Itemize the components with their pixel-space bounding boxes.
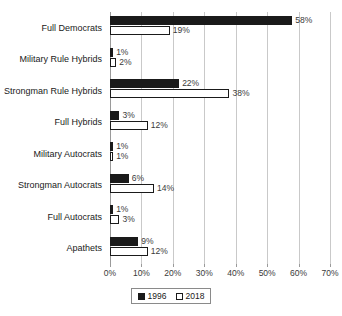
category-label: Military Rule Hybrids — [19, 44, 106, 76]
filled-square-icon — [138, 293, 145, 300]
plot-area: 58%19%1%2%22%38%3%12%1%1%6%14%1%3%9%12% — [110, 12, 330, 264]
bar-row: 9%12% — [110, 233, 330, 265]
bar-2018 — [110, 184, 154, 193]
bar-2018 — [110, 58, 116, 67]
legend-label: 2018 — [186, 291, 205, 301]
bar-1996 — [110, 142, 113, 151]
bar-1996 — [110, 111, 119, 120]
x-tick — [141, 264, 142, 267]
x-tick-label: 50% — [259, 268, 276, 278]
gridline-70pct — [330, 12, 331, 264]
category-label: Military Autocrats — [33, 138, 106, 170]
bar-value-label: 14% — [157, 184, 174, 193]
category-label: Apathets — [66, 233, 106, 265]
x-tick-label: 30% — [196, 268, 213, 278]
category-label: Strongman Rule Hybrids — [4, 75, 106, 107]
bar-value-label: 3% — [122, 215, 134, 224]
bar-2018 — [110, 215, 119, 224]
bar-value-label: 58% — [295, 16, 312, 25]
x-axis: 0%10%20%30%40%50%60%70% — [110, 264, 330, 280]
bar-value-label: 19% — [173, 26, 190, 35]
bar-value-label: 1% — [116, 48, 128, 57]
bar-value-label: 1% — [116, 152, 128, 161]
x-tick — [236, 264, 237, 267]
x-tick — [299, 264, 300, 267]
bar-value-label: 38% — [232, 89, 249, 98]
bar-1996 — [110, 48, 113, 57]
bar-value-label: 1% — [116, 205, 128, 214]
category-axis: Full DemocratsMilitary Rule HybridsStron… — [0, 12, 106, 264]
bar-1996 — [110, 174, 129, 183]
x-tick-label: 70% — [321, 268, 338, 278]
bar-2018 — [110, 26, 170, 35]
category-label: Full Democrats — [41, 12, 106, 44]
bar-row: 1%3% — [110, 201, 330, 233]
legend-entry-1996: 1996 — [138, 291, 167, 301]
x-tick-label: 40% — [227, 268, 244, 278]
bar-1996 — [110, 205, 113, 214]
bar-value-label: 12% — [151, 121, 168, 130]
bar-value-label: 22% — [182, 79, 199, 88]
bar-row: 58%19% — [110, 12, 330, 44]
bar-2018 — [110, 89, 229, 98]
bar-row: 22%38% — [110, 75, 330, 107]
x-tick — [173, 264, 174, 267]
bar-rows: 58%19%1%2%22%38%3%12%1%1%6%14%1%3%9%12% — [110, 12, 330, 264]
bar-1996 — [110, 79, 179, 88]
bar-value-label: 9% — [141, 237, 153, 246]
chart-legend: 19962018 — [0, 288, 342, 304]
bar-value-label: 1% — [116, 142, 128, 151]
hollow-square-icon — [176, 293, 183, 300]
x-tick-label: 10% — [133, 268, 150, 278]
bar-value-label: 6% — [132, 174, 144, 183]
x-tick-label: 0% — [104, 268, 116, 278]
bar-2018 — [110, 121, 148, 130]
x-tick — [267, 264, 268, 267]
bar-1996 — [110, 237, 138, 246]
bar-row: 6%14% — [110, 170, 330, 202]
bar-2018 — [110, 152, 113, 161]
legend-entry-2018: 2018 — [176, 291, 205, 301]
category-label: Full Autocrats — [47, 201, 106, 233]
bar-2018 — [110, 247, 148, 256]
category-label: Full Hybrids — [54, 107, 106, 139]
bar-row: 1%1% — [110, 138, 330, 170]
x-tick — [204, 264, 205, 267]
x-tick — [110, 264, 111, 267]
bar-row: 3%12% — [110, 107, 330, 139]
bar-1996 — [110, 16, 292, 25]
bar-value-label: 3% — [122, 111, 134, 120]
x-tick-label: 60% — [290, 268, 307, 278]
x-tick — [330, 264, 331, 267]
bar-value-label: 2% — [119, 58, 131, 67]
legend-label: 1996 — [148, 291, 167, 301]
x-tick-label: 20% — [164, 268, 181, 278]
bar-row: 1%2% — [110, 44, 330, 76]
bar-value-label: 12% — [151, 247, 168, 256]
bar-chart: Full DemocratsMilitary Rule HybridsStron… — [0, 0, 342, 316]
category-label: Strongman Autocrats — [18, 170, 106, 202]
legend-box: 19962018 — [131, 288, 212, 304]
